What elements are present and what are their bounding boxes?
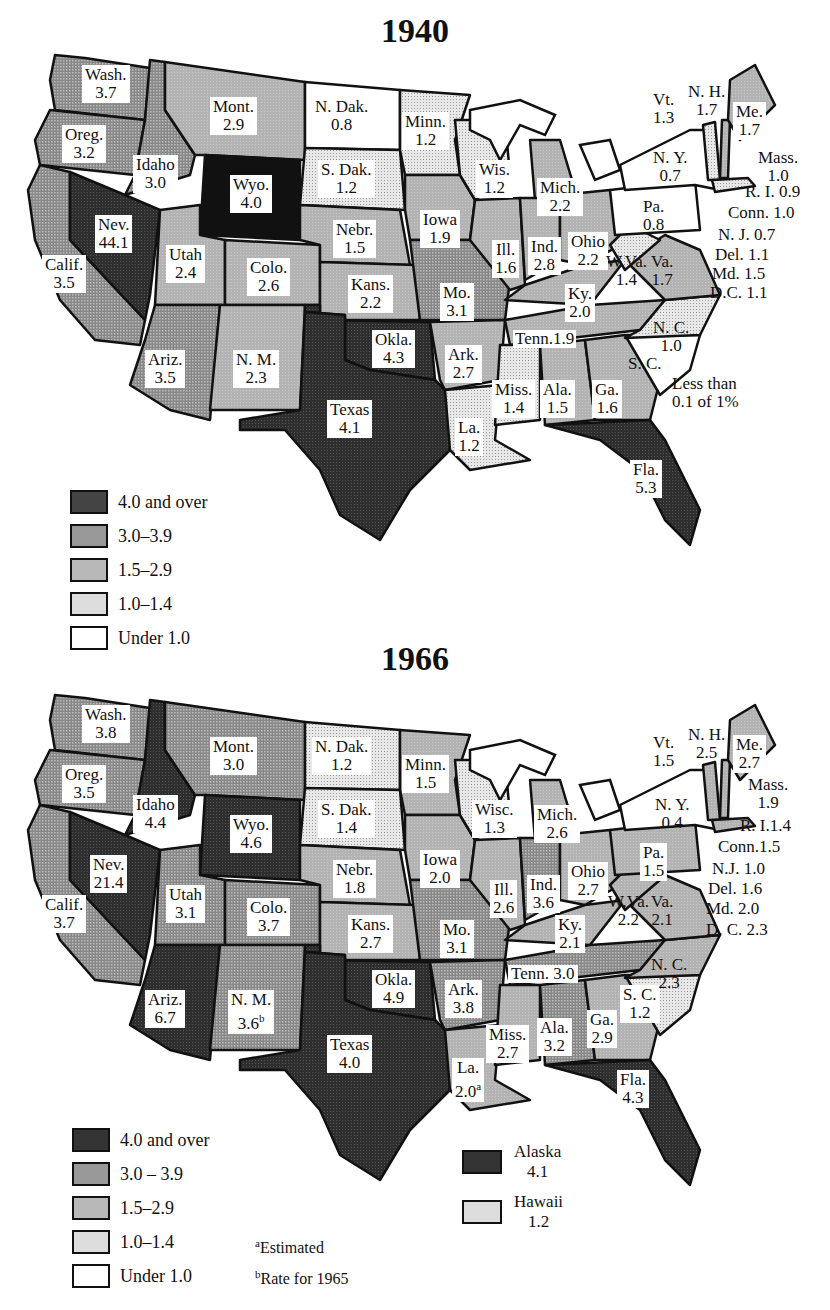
label-iowa-1966: Iowa2.0	[420, 850, 460, 888]
label-minn-1966: Minn.1.5	[402, 755, 449, 793]
label-tenn-1966: Tenn. 3.0	[508, 965, 578, 983]
footnote-rate-1965: bRate for 1965	[255, 1268, 348, 1288]
legend-item: 3.0 – 3.9	[72, 1157, 209, 1191]
label-nc-1940: N. C.1.0	[650, 318, 692, 356]
label-texas-1940: Texas4.1	[327, 400, 372, 438]
label-kans-1940: Kans.2.2	[348, 275, 393, 313]
legend-hawaii: Hawaii1.2	[462, 1192, 563, 1232]
label-me-1940: Me.1.7	[733, 102, 766, 140]
label-pa-1940: Pa.0.8	[640, 197, 667, 235]
label-dc-1966: D. C. 2.3	[706, 921, 768, 939]
label-wash-1940: Wash.3.7	[82, 65, 130, 103]
label-nm-1966: N. M.3.6b	[228, 990, 274, 1034]
label-ala-1940: Ala.1.5	[540, 380, 575, 418]
alaska-swatch	[462, 1150, 502, 1174]
label-ndak-1940: N. Dak.0.8	[312, 97, 371, 135]
label-oreg-1966: Oreg.3.5	[62, 765, 106, 803]
legend-item: 4.0 and over	[72, 1123, 209, 1157]
label-sdak-1966: S. Dak.1.4	[318, 800, 375, 838]
label-conn-1966: Conn.1.5	[718, 838, 780, 856]
label-mo-1940: Mo.3.1	[440, 283, 474, 321]
label-wva-1940: W.Va.1.4	[603, 252, 650, 290]
label-ill-1966: Ill.2.6	[490, 880, 517, 918]
label-del-1966: Del. 1.6	[708, 880, 762, 898]
label-ohio-1966: Ohio2.7	[568, 862, 608, 900]
label-fla-1940: Fla.5.3	[630, 460, 662, 498]
label-calif-1940: Calif.3.5	[42, 255, 86, 293]
label-wis-1966: Wisc.1.3	[472, 800, 517, 838]
legend-1940: 4.0 and over 3.0–3.9 1.5–2.9 1.0–1.4 Und…	[70, 485, 207, 655]
label-ohio-1940: Ohio2.2	[568, 232, 608, 270]
label-ri-1966: R. I.1.4	[740, 817, 791, 835]
legend-item: 1.5–2.9	[70, 553, 207, 587]
label-utah-1966: Utah3.1	[166, 885, 205, 923]
label-ark-1966: Ark.3.8	[445, 980, 482, 1018]
label-md-1966: Md. 2.0	[706, 900, 759, 918]
legend-item: 4.0 and over	[70, 485, 207, 519]
label-ndak-1966: N. Dak.1.2	[312, 737, 371, 775]
label-wyo-1966: Wyo.4.6	[230, 815, 272, 853]
legend-item: 1.0–1.4	[72, 1225, 209, 1259]
label-la-1940: La.1.2	[455, 418, 483, 456]
label-ala-1966: Ala.3.2	[537, 1018, 572, 1056]
label-conn-1940: Conn. 1.0	[728, 204, 795, 222]
label-mo-1966: Mo.3.1	[440, 920, 474, 958]
label-utah-1940: Utah2.4	[166, 245, 205, 283]
footnote-estimated: aEstimated	[255, 1237, 324, 1257]
label-wash-1966: Wash.3.8	[82, 705, 130, 743]
label-nev-1966: Nev.21.4	[90, 855, 127, 893]
label-va-1940: Va.1.7	[648, 252, 676, 290]
label-wis-1940: Wis.1.2	[476, 160, 513, 198]
state-nh	[720, 760, 730, 818]
label-nev-1940: Nev.44.1	[95, 215, 132, 253]
label-fla-1966: Fla.4.3	[617, 1070, 649, 1108]
label-nebr-1966: Nebr.1.8	[333, 860, 376, 898]
label-idaho-1940: Idaho3.0	[133, 155, 178, 193]
label-ky-1966: Ky.2.1	[555, 915, 585, 953]
label-del-1940: Del. 1.1	[715, 246, 769, 264]
label-colo-1940: Colo.2.6	[247, 258, 290, 296]
legend-1966: 4.0 and over 3.0 – 3.9 1.5–2.9 1.0–1.4 U…	[72, 1123, 209, 1293]
label-md-1940: Md. 1.5	[712, 265, 765, 283]
label-kans-1966: Kans.2.7	[348, 915, 393, 953]
label-pa-1966: Pa.1.5	[640, 843, 667, 881]
legend-alaska: Alaska4.1	[462, 1142, 561, 1182]
label-sdak-1940: S. Dak.1.2	[318, 160, 375, 198]
label-calif-1966: Calif.3.7	[42, 895, 86, 933]
label-nj-1966: N.J. 1.0	[712, 860, 765, 878]
legend-item: 3.0–3.9	[70, 519, 207, 553]
label-ariz-1966: Ariz.6.7	[145, 990, 185, 1028]
label-mass-1940: Mass.1.0	[755, 148, 801, 186]
label-nc-1966: N. C.2.3	[648, 955, 690, 993]
label-mass-1966: Mass.1.9	[745, 775, 791, 813]
label-wva-1966: W.Va.2.2	[605, 892, 652, 930]
legend-item: Under 1.0	[72, 1259, 209, 1293]
label-mich-1940: Mich.2.2	[537, 178, 583, 216]
label-nm-1940: N. M.2.3	[233, 350, 279, 388]
label-ariz-1940: Ariz.3.5	[145, 350, 185, 388]
state-fla	[545, 420, 700, 545]
hawaii-swatch	[462, 1200, 502, 1224]
label-ga-1966: Ga.2.9	[587, 1010, 617, 1048]
label-miss-1966: Miss.2.7	[486, 1025, 529, 1063]
label-okla-1966: Okla.4.9	[372, 970, 415, 1008]
label-me-1966: Me.2.7	[733, 735, 766, 773]
label-vt-1940: Vt.1.3	[650, 90, 677, 128]
label-ark-1940: Ark.2.7	[445, 345, 482, 383]
annotation-sc-1940: Less than 0.1 of 1%	[672, 375, 739, 411]
label-ri-1940: R. I. 0.9	[745, 183, 800, 201]
label-ky-1940: Ky.2.0	[565, 284, 595, 322]
label-la-1966: La.2.0a	[452, 1058, 484, 1102]
label-wyo-1940: Wyo.4.0	[230, 175, 272, 213]
label-mont-1940: Mont.2.9	[210, 97, 257, 135]
label-dc-1940: D.C. 1.1	[710, 284, 768, 302]
legend-item: 1.0–1.4	[70, 587, 207, 621]
label-vt-1966: Vt.1.5	[650, 733, 677, 771]
label-ind-1940: Ind.2.8	[528, 237, 561, 275]
label-nj-1940: N. J. 0.7	[718, 226, 775, 244]
label-texas-1966: Texas4.0	[327, 1035, 372, 1073]
label-idaho-1966: Idaho4.4	[133, 795, 178, 833]
label-oreg-1940: Oreg.3.2	[62, 125, 106, 163]
label-ill-1940: Ill.1.6	[492, 240, 519, 278]
label-mich-1966: Mich.2.6	[534, 805, 580, 843]
